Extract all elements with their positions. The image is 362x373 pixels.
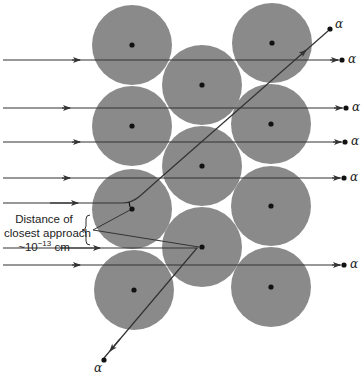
- nucleus-dot: [199, 82, 204, 87]
- alpha-particle-dot: [341, 175, 346, 180]
- alpha-label-backscattered: α: [94, 362, 102, 373]
- alpha-particle-dot: [101, 357, 106, 362]
- nucleus-dot: [268, 284, 273, 289]
- alpha-label: α: [350, 171, 358, 183]
- alpha-label: α: [352, 101, 360, 113]
- nucleus-dot: [268, 203, 273, 208]
- annotation-line1: Distance of: [4, 212, 84, 226]
- scattering-diagram: [0, 0, 362, 373]
- annotation-distance: ~10−13 cm: [4, 240, 84, 254]
- alpha-particle-dot: [342, 139, 347, 144]
- alpha-label-deflected: α: [335, 18, 343, 30]
- nucleus-dot: [129, 123, 134, 128]
- annotation-line2: closest approach: [4, 226, 84, 240]
- alpha-label: α: [348, 53, 356, 65]
- nucleus-dot: [129, 206, 134, 211]
- nucleus-dot: [129, 42, 134, 47]
- atom-lattice: [92, 3, 312, 330]
- alpha-particle-dot: [341, 262, 346, 267]
- nucleus-dot: [131, 287, 136, 292]
- nucleus-dot: [199, 244, 204, 249]
- nucleus-dot: [268, 121, 273, 126]
- alpha-label: α: [351, 135, 359, 147]
- alpha-label: α: [350, 258, 358, 270]
- closest-approach-label: Distance of closest approach ~10−13 cm: [4, 212, 84, 254]
- alpha-particle-dot: [343, 105, 348, 110]
- alpha-particle-dot: [327, 26, 332, 31]
- nucleus-dot: [269, 40, 274, 45]
- nucleus-dot: [199, 163, 204, 168]
- alpha-particle-dot: [339, 57, 344, 62]
